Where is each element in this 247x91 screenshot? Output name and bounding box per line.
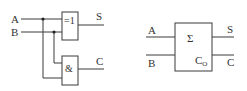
block-input-b-label: B: [148, 57, 155, 69]
block-output-s-label: S: [227, 23, 233, 35]
and-gate-symbol: &: [65, 63, 73, 74]
input-a-label: A: [11, 13, 19, 25]
output-s-label: S: [96, 10, 102, 22]
junction-a: [41, 17, 44, 20]
carry-letter: C: [195, 54, 202, 66]
wire-a-branch: [43, 19, 62, 78]
gate-level-circuit: A B =1 S & C: [11, 10, 104, 85]
sum-symbol: Σ: [187, 32, 193, 44]
xor-gate-symbol: =1: [64, 15, 75, 26]
carry-subscript: O: [202, 60, 207, 68]
half-adder-block: A B Σ CO S C: [146, 23, 234, 71]
half-adder-diagram: A B =1 S & C A B Σ CO S C: [0, 0, 247, 91]
wire-b-branch: [54, 32, 62, 63]
input-b-label: B: [11, 26, 18, 38]
junction-b: [52, 30, 55, 33]
block-output-c-label: C: [227, 56, 234, 68]
block-input-a-label: A: [148, 24, 156, 36]
output-c-label: C: [96, 55, 103, 67]
